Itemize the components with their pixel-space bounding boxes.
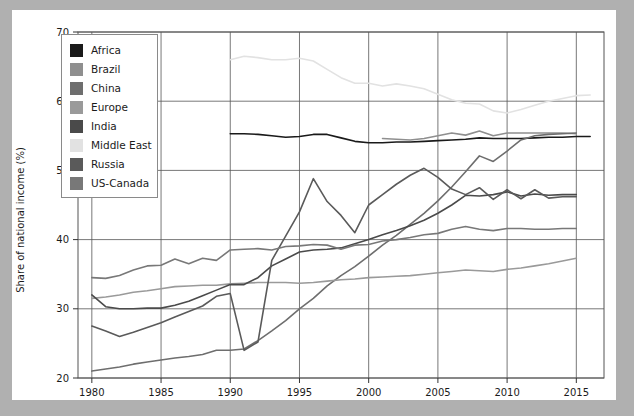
legend-item-label: Europe [91, 102, 128, 113]
y-tick-label: 40 [56, 234, 69, 245]
legend-item-india[interactable]: India [70, 117, 147, 136]
legend-item-middle-east[interactable]: Middle East [70, 136, 147, 155]
legend-item-brazil[interactable]: Brazil [70, 60, 147, 79]
figure-frame: 19801985199019952000200520102015 2030405… [12, 10, 616, 400]
series-line-china [92, 133, 576, 371]
legend-item-russia[interactable]: Russia [70, 155, 147, 174]
x-tick-label: 1980 [79, 387, 104, 398]
legend-item-label: India [91, 121, 117, 132]
x-tick-label: 1990 [218, 387, 243, 398]
legend-item-us-canada[interactable]: US-Canada [70, 174, 147, 193]
legend-item-label: Africa [91, 45, 121, 56]
chart-legend: AfricaBrazilChinaEuropeIndiaMiddle EastR… [61, 34, 158, 198]
legend-item-label: Middle East [91, 140, 152, 151]
x-tick-label: 2000 [356, 387, 381, 398]
x-tick-label: 1985 [148, 387, 173, 398]
y-tick-label: 30 [56, 303, 69, 314]
y-tick-label: 20 [56, 373, 69, 384]
legend-item-europe[interactable]: Europe [70, 98, 147, 117]
x-tick-label: 2015 [564, 387, 589, 398]
legend-swatch-icon [70, 139, 83, 152]
x-tick-label: 2005 [425, 387, 450, 398]
legend-item-africa[interactable]: Africa [70, 41, 147, 60]
legend-swatch-icon [70, 44, 83, 57]
x-tick-labels: 19801985199019952000200520102015 [79, 387, 589, 398]
series-group [92, 56, 590, 371]
legend-item-label: China [91, 83, 121, 94]
legend-item-label: US-Canada [91, 178, 149, 189]
legend-item-label: Russia [91, 159, 125, 170]
series-line-middle-east [230, 56, 590, 113]
legend-swatch-icon [70, 63, 83, 76]
legend-item-china[interactable]: China [70, 79, 147, 98]
x-tick-label: 2010 [494, 387, 519, 398]
legend-item-label: Brazil [91, 64, 120, 75]
x-tick-label: 1995 [287, 387, 312, 398]
legend-swatch-icon [70, 120, 83, 133]
y-axis-title: Share of national income (%) [15, 147, 26, 293]
legend-swatch-icon [70, 82, 83, 95]
legend-swatch-icon [70, 101, 83, 114]
legend-swatch-icon [70, 158, 83, 171]
legend-swatch-icon [70, 177, 83, 190]
series-line-russia [92, 168, 576, 350]
